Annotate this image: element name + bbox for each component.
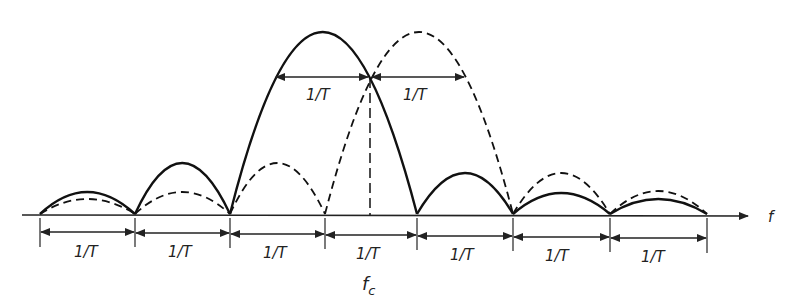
bottom-interval-label-3: 1/T xyxy=(263,244,289,262)
frequency-axis xyxy=(22,215,748,216)
diagram-canvas: f 1/T 1/T xyxy=(0,0,798,308)
axis-label-f: f xyxy=(768,208,776,226)
top-interval-label-2: 1/T xyxy=(403,86,429,104)
bottom-interval-label-7: 1/T xyxy=(641,248,667,266)
bottom-interval-label-1: 1/T xyxy=(74,243,100,261)
bottom-interval-label-5: 1/T xyxy=(450,246,476,264)
solid-spectrum xyxy=(40,32,707,214)
bottom-interval-label-6: 1/T xyxy=(545,247,571,265)
top-interval-label-1: 1/T xyxy=(306,86,332,104)
center-frequency-label: fc xyxy=(362,273,376,298)
dashed-spectrum xyxy=(40,32,707,214)
bottom-interval-label-2: 1/T xyxy=(168,243,194,261)
bottom-interval-label-4: 1/T xyxy=(356,245,382,263)
spectrum-diagram: f 1/T 1/T xyxy=(0,0,798,308)
bottom-interval-arrows xyxy=(41,232,706,238)
